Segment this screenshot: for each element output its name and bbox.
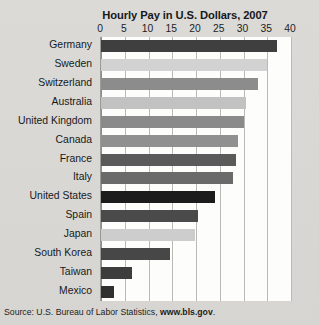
- source-prefix: Source: U.S. Bureau of Labor Statistics,: [4, 307, 160, 317]
- bar-australia: [101, 97, 246, 109]
- source-url-link[interactable]: www.bls.gov: [160, 307, 213, 317]
- bar-germany: [101, 40, 277, 52]
- y-label-canada: Canada: [0, 134, 92, 145]
- bar-france: [101, 154, 236, 166]
- bar-italy: [101, 172, 233, 184]
- gridline-40: [291, 37, 292, 301]
- bar-spain: [101, 210, 198, 222]
- y-label-mexico: Mexico: [0, 285, 92, 296]
- chart-figure: Hourly Pay in U.S. Dollars, 2007 0510152…: [0, 0, 319, 325]
- y-label-switzerland: Switzerland: [0, 77, 92, 88]
- x-axis-tick-labels: 0510152025303540: [0, 23, 319, 37]
- y-label-united-states: United States: [0, 190, 92, 201]
- bar-taiwan: [101, 267, 132, 279]
- y-label-spain: Spain: [0, 209, 92, 220]
- y-label-australia: Australia: [0, 96, 92, 107]
- bar-mexico: [101, 286, 114, 298]
- y-label-united-kingdom: United Kingdom: [0, 115, 92, 126]
- y-label-italy: Italy: [0, 171, 92, 182]
- source-suffix: .: [213, 307, 215, 317]
- y-axis-category-labels: GermanySwedenSwitzerlandAustraliaUnited …: [0, 37, 96, 301]
- bars-layer: [101, 37, 291, 301]
- bar-switzerland: [101, 78, 258, 90]
- y-label-sweden: Sweden: [0, 58, 92, 69]
- y-label-japan: Japan: [0, 228, 92, 239]
- bar-south-korea: [101, 248, 170, 260]
- bar-sweden: [101, 59, 267, 71]
- bar-united-kingdom: [101, 116, 244, 128]
- y-label-france: France: [0, 153, 92, 164]
- source-note: Source: U.S. Bureau of Labor Statistics,…: [4, 307, 215, 317]
- bar-canada: [101, 135, 238, 147]
- bar-united-states: [101, 191, 215, 203]
- y-label-south-korea: South Korea: [0, 247, 92, 258]
- x-tick-40: 40: [275, 23, 305, 34]
- y-label-taiwan: Taiwan: [0, 266, 92, 277]
- bar-japan: [101, 229, 195, 241]
- chart-title: Hourly Pay in U.S. Dollars, 2007: [70, 9, 300, 21]
- plot-area: [100, 37, 291, 301]
- y-label-germany: Germany: [0, 39, 92, 50]
